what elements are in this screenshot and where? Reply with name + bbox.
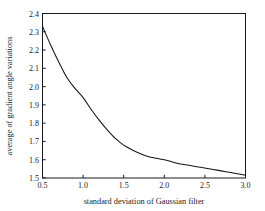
chart-figure: 0.51.01.52.02.53.0 1.51.61.71.81.92.02.1…: [0, 0, 265, 211]
x-tick-label: 2.0: [159, 181, 169, 190]
y-tick-label: 1.8: [29, 119, 39, 128]
y-tick-label: 1.5: [29, 174, 39, 183]
x-tick-label: 2.5: [200, 181, 210, 190]
y-tick-label: 1.6: [29, 156, 39, 165]
x-tick-label: 0.5: [38, 181, 48, 190]
x-tick-label: 3.0: [241, 181, 251, 190]
y-axis-title: average of gradient angle variations: [5, 37, 14, 156]
y-tick-label: 2.4: [29, 10, 39, 19]
x-tick-label: 1.5: [119, 181, 129, 190]
y-tick-label: 1.7: [29, 137, 39, 146]
y-tick-label: 2.1: [29, 64, 39, 73]
y-tick-label: 2.0: [29, 83, 39, 92]
y-tick-label: 2.3: [29, 28, 39, 37]
y-tick-label: 2.2: [29, 46, 39, 55]
x-tick-label: 1.0: [78, 181, 88, 190]
chart-background: [0, 0, 265, 211]
x-axis-title: standard deviation of Gaussian filter: [84, 197, 205, 206]
line-chart: 0.51.01.52.02.53.0 1.51.61.71.81.92.02.1…: [0, 0, 265, 211]
y-tick-label: 1.9: [29, 101, 39, 110]
